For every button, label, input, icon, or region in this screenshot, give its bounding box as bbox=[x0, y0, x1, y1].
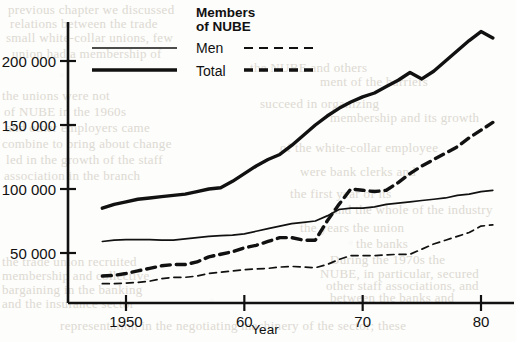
legend-label-men: Men bbox=[196, 40, 223, 56]
x-tick-label: 60 bbox=[236, 313, 253, 330]
y-tick-label: 200 000 bbox=[2, 53, 56, 70]
legend-label-total: Total bbox=[196, 63, 226, 79]
chart-axes bbox=[68, 22, 514, 303]
x-tick-label: 70 bbox=[354, 313, 371, 330]
legend-title-line2: of NUBE bbox=[196, 19, 251, 34]
legend-title-line1: Members bbox=[196, 5, 255, 20]
series-men-nube-members bbox=[102, 225, 493, 284]
x-tick-label: 80 bbox=[473, 313, 490, 330]
series-total bbox=[102, 32, 493, 209]
y-axis-tick-labels: 50 000100 000150 000200 000 bbox=[2, 53, 56, 262]
y-tick-label: 50 000 bbox=[10, 245, 56, 262]
chart-legend: Members of NUBE Men Total bbox=[92, 5, 318, 79]
x-axis-tick-labels: 1950607080 bbox=[109, 313, 489, 330]
x-axis-label: Year bbox=[251, 322, 279, 337]
y-tick-label: 100 000 bbox=[2, 181, 56, 198]
x-tick-label: 1950 bbox=[109, 313, 142, 330]
chart-figure: 50 000100 000150 000200 000 1950607080 Y… bbox=[0, 0, 516, 342]
y-tick-label: 150 000 bbox=[2, 117, 56, 134]
